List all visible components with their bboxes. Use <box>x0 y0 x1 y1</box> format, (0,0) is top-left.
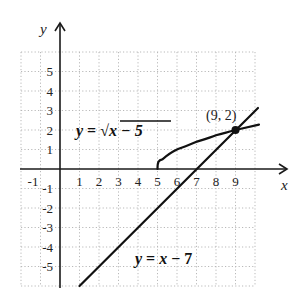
y-axis <box>55 23 65 288</box>
eq-radicand: x − 5 <box>108 122 143 139</box>
x-tick: -1 <box>28 174 39 189</box>
x-tick: 4 <box>135 174 142 189</box>
x-axis-label: x <box>280 177 288 193</box>
y-tick: -5 <box>42 259 53 274</box>
x-tick: 5 <box>154 174 161 189</box>
y-tick: 2 <box>47 123 54 138</box>
linear-equation-label: y = x − 7 <box>133 250 192 268</box>
intersection-point-marker <box>232 126 240 134</box>
y-tick: -1 <box>42 181 53 196</box>
eq-equals: = <box>83 122 100 139</box>
y-tick: -2 <box>42 201 53 216</box>
x-tick: 2 <box>96 174 103 189</box>
y-tick: 5 <box>47 64 54 79</box>
x-tick: 3 <box>115 174 122 189</box>
x-tick: 7 <box>193 174 200 189</box>
x-tick: 8 <box>213 174 220 189</box>
sqrt-symbol: √ <box>100 122 109 139</box>
y-axis-label: y <box>38 21 47 37</box>
y-tick: -4 <box>42 240 53 255</box>
sqrt-equation-label: y = √x − 5 <box>74 121 171 140</box>
x-tick: 9 <box>232 174 239 189</box>
y-tick: -3 <box>42 220 53 235</box>
sqrt-curve <box>158 125 260 169</box>
svg-text:y = √x − 5: y = √x − 5 <box>74 122 143 140</box>
y-tick: 4 <box>47 84 54 99</box>
graph: x y -1 1 2 3 4 5 6 7 8 9 5 4 3 2 1 -1 -2… <box>0 0 293 294</box>
y-tick: 3 <box>47 103 54 118</box>
intersection-point-label: (9, 2) <box>206 108 237 124</box>
y-tick: 1 <box>47 142 54 157</box>
x-tick: 1 <box>76 174 83 189</box>
